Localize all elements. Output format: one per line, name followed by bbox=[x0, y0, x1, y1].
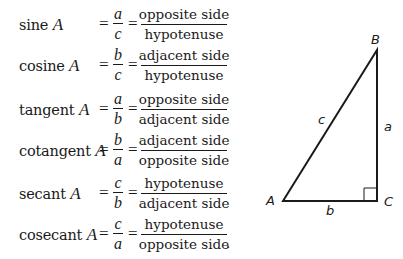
right-angle-marker bbox=[364, 188, 377, 201]
vertex-label-c: C bbox=[384, 194, 393, 209]
side-label-c: c bbox=[318, 112, 325, 127]
right-triangle-diagram bbox=[0, 0, 403, 259]
side-label-a: a bbox=[384, 119, 392, 134]
triangle-outline bbox=[283, 50, 377, 201]
vertex-label-a: A bbox=[266, 193, 275, 208]
vertex-label-b: B bbox=[371, 32, 380, 47]
side-label-b: b bbox=[326, 203, 334, 218]
